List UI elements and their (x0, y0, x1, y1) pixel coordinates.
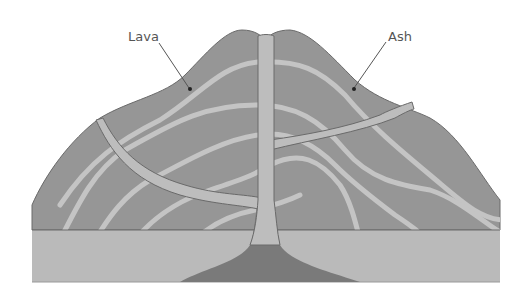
ash-leader (352, 42, 386, 91)
volcano-diagram: Lava Ash (0, 0, 529, 308)
ash-label: Ash (388, 29, 412, 44)
lava-label: Lava (128, 29, 159, 44)
